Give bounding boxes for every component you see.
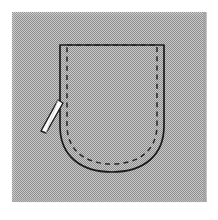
halftone-panel <box>11 11 207 203</box>
figure-root: Technical sewing illustration of a round… <box>0 0 218 220</box>
pocket-diagram <box>0 0 218 220</box>
